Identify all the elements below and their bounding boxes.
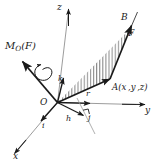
distance-h-label: h bbox=[66, 115, 71, 123]
unit-vector-j-arrow bbox=[58, 103, 91, 104]
y-axis-label: y bbox=[145, 106, 150, 115]
moment-vector-label: MO(F) bbox=[5, 41, 36, 52]
z-axis-label: z bbox=[57, 3, 62, 12]
z-axis-line bbox=[58, 11, 69, 103]
origin-label: O bbox=[40, 98, 47, 107]
rotation-sense-arrow bbox=[35, 65, 52, 81]
moment-argument: (F) bbox=[21, 40, 36, 51]
unit-vector-j-label: j bbox=[88, 114, 90, 122]
point-A-label: A(x ,y ,z) bbox=[112, 83, 148, 92]
moment-symbol: M bbox=[5, 40, 15, 51]
force-vector-F-label: F bbox=[128, 29, 134, 38]
unit-vector-i-label: i bbox=[42, 122, 45, 130]
point-B-label: B bbox=[121, 13, 128, 22]
position-vector-r-label: r bbox=[86, 90, 90, 98]
x-axis-label: x bbox=[13, 152, 18, 161]
unit-vector-k-label: k bbox=[58, 75, 63, 83]
vector-mechanics-figure: z y x O k j i h r B F A(x ,y ,z) MO(F) bbox=[0, 0, 159, 166]
